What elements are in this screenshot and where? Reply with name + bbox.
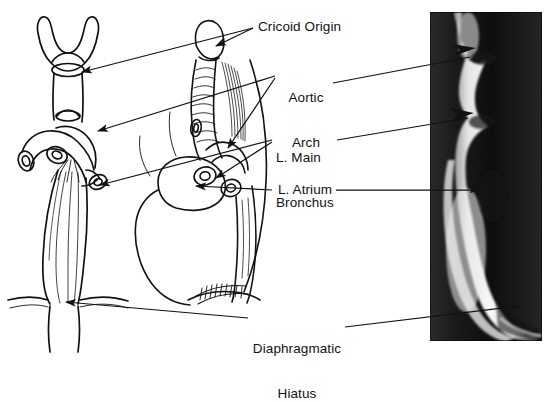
label-diaphragmatic-hiatus-line2: Hiatus <box>249 386 345 401</box>
leader-atrium-middle <box>196 186 272 190</box>
leader-cricoid-left <box>82 28 253 72</box>
label-diaphragmatic-hiatus: Diaphragmatic Hiatus <box>249 311 345 402</box>
leader-aorta-left <box>98 76 275 131</box>
leader-hiatus-left <box>66 302 248 318</box>
label-aortic-arch-line1: Aortic <box>279 90 333 105</box>
leader-hiatus-xray <box>345 306 520 327</box>
label-diaphragmatic-hiatus-line1: Diaphragmatic <box>249 341 345 356</box>
leader-bronchus-xray <box>337 118 468 140</box>
label-cricoid-origin: Cricoid Origin <box>258 19 341 34</box>
leader-aorta-xray <box>333 57 470 83</box>
label-l-main-bronchus: L. Main Bronchus <box>276 120 334 240</box>
leader-cricoid-middle <box>216 28 253 46</box>
label-l-main-bronchus-line1: L. Main <box>276 150 334 165</box>
label-l-atrium: L. Atrium <box>278 182 332 197</box>
leader-bronchus-left <box>100 140 272 185</box>
radiograph-arrow-marks <box>450 44 476 121</box>
label-l-main-bronchus-line2: Bronchus <box>276 195 334 210</box>
